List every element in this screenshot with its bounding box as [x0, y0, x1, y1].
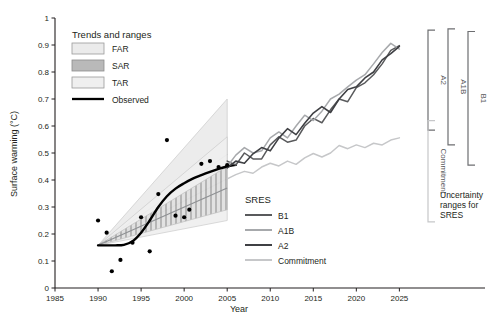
y-tick-label: 0 [45, 284, 50, 293]
sres-legend-label-commitment: Commitment [278, 256, 327, 266]
trends-legend-title: Trends and ranges [72, 29, 152, 40]
scatter-point [105, 231, 109, 235]
y-tick-label: 0.3 [38, 203, 50, 212]
legend-label-sar: SAR [112, 61, 129, 71]
scatter-point [110, 269, 114, 273]
scatter-point [148, 249, 152, 253]
sres-legend-title: SRES [245, 194, 271, 205]
bracket-label-a1b: A1B [459, 79, 468, 94]
x-tick-label: 1995 [132, 294, 150, 303]
y-tick-label: 0.9 [38, 41, 50, 50]
sres-legend-label-b1: B1 [278, 211, 289, 221]
scatter-point [225, 163, 229, 167]
x-tick-label: 2005 [218, 294, 236, 303]
y-tick-label: 0.1 [38, 257, 50, 266]
scatter-point [173, 214, 177, 218]
uncertainty-bracket-a2: A2 [428, 30, 448, 130]
chart-figure: 00.10.20.30.40.50.60.70.80.9119851990199… [0, 0, 490, 323]
x-tick-label: 2010 [261, 294, 279, 303]
scatter-point [96, 218, 100, 222]
y-axis-title: Surface warming (°C) [9, 111, 19, 197]
surface-warming-projection-chart: 00.10.20.30.40.50.60.70.80.9119851990199… [0, 0, 490, 323]
legend-swatch-tar [72, 77, 104, 88]
caption-line-3: SRES [440, 210, 463, 220]
scatter-point [187, 208, 191, 212]
sres-legend: SRES B1A1BA2Commitment [245, 194, 327, 266]
legend-swatch-far [72, 43, 104, 54]
uncertainty-bracket-a1b: A1B [448, 29, 468, 145]
scatter-point [199, 162, 203, 166]
scatter-point [156, 192, 160, 196]
scatter-point [130, 241, 134, 245]
x-axis-title: Year [230, 304, 248, 314]
scatter-point [139, 215, 143, 219]
y-tick-label: 0.5 [38, 149, 50, 158]
series-line-a1b [227, 43, 399, 166]
bracket-label-commitment: Commitment [439, 149, 448, 195]
sres-legend-label-a2: A2 [278, 241, 289, 251]
scatter-point [182, 215, 186, 219]
x-tick-label: 2025 [390, 294, 408, 303]
bracket-label-b1: B1 [479, 93, 488, 103]
scatter-point [216, 165, 220, 169]
trends-legend: Trends and ranges FARSARTARObserved [72, 29, 152, 105]
legend-label-tar: TAR [112, 78, 128, 88]
y-tick-label: 0.4 [38, 176, 50, 185]
x-tick-label: 2020 [347, 294, 365, 303]
legend-label-observed: Observed [112, 95, 149, 105]
x-tick-label: 2015 [304, 294, 322, 303]
y-tick-label: 0.7 [38, 95, 50, 104]
bracket-label-a2: A2 [439, 75, 448, 85]
legend-swatch-sar [72, 60, 104, 71]
uncertainty-bracket-b1: B1 [468, 32, 488, 166]
x-tick-label: 2000 [175, 294, 193, 303]
uncertainty-caption: Uncertainty ranges for SRES [440, 190, 484, 220]
scatter-point [118, 258, 122, 262]
sres-legend-label-a1b: A1B [278, 226, 294, 236]
legend-label-far: FAR [112, 44, 129, 54]
caption-line-1: Uncertainty [440, 190, 484, 200]
y-tick-label: 0.8 [38, 68, 50, 77]
scatter-point [208, 159, 212, 163]
y-tick-label: 0.6 [38, 122, 50, 131]
caption-line-2: ranges for [440, 200, 478, 210]
scatter-point [165, 138, 169, 142]
y-tick-label: 1 [45, 14, 50, 23]
x-tick-label: 1990 [89, 294, 107, 303]
x-tick-label: 1985 [46, 294, 64, 303]
y-tick-label: 0.2 [38, 230, 50, 239]
